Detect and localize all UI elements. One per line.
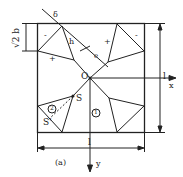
sign-minus-tr: - <box>135 32 138 40</box>
sign-plus-tl: + <box>49 55 56 63</box>
dim-label-bottom: l <box>88 138 91 147</box>
plate-diagram <box>0 0 183 177</box>
y-axis-label: y <box>96 160 101 168</box>
origin-point <box>89 77 92 80</box>
point-s <box>72 95 75 98</box>
yield-line-tr <box>108 24 144 62</box>
point-label-s-prime: S' <box>43 118 52 127</box>
yield-line-br <box>109 98 144 132</box>
dim-label-right: l <box>163 72 166 81</box>
x-axis-label: x <box>169 82 174 90</box>
caption: (a) <box>55 159 66 167</box>
dim-label-delta: δ <box>53 11 58 19</box>
dim-label-h: h <box>69 38 74 46</box>
dim-label-e: e <box>94 53 98 60</box>
hinge-line <box>90 78 109 98</box>
sign-plus-tr: + <box>104 38 111 46</box>
x-axis-arrow <box>169 76 176 81</box>
region-1-label: 1 <box>94 109 98 115</box>
region-2-label: 2 <box>50 105 54 111</box>
sign-minus-tl: - <box>44 32 47 40</box>
origin-label: O <box>81 72 88 81</box>
dim-label-left: √2 b <box>12 28 21 48</box>
point-label-s: S <box>76 94 82 103</box>
y-axis-arrow <box>88 165 93 172</box>
